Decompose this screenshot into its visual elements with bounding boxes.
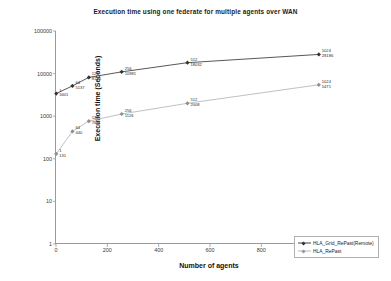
- legend-label-0: HLA_Grid_RePast(Remote): [313, 241, 374, 246]
- legend-marker-icon-1: [298, 248, 311, 255]
- y-tick-label: 100: [43, 156, 52, 162]
- x-tick-label: 400: [154, 247, 163, 253]
- legend: HLA_Grid_RePast(Remote) HLA_RePast: [294, 236, 379, 258]
- x-tick-label: 800: [257, 247, 266, 253]
- data-point-marker[interactable]: [54, 91, 58, 95]
- data-point-marker[interactable]: [87, 75, 91, 79]
- legend-item-1[interactable]: HLA_RePast: [298, 247, 374, 255]
- data-point-marker[interactable]: [317, 83, 321, 87]
- plot-area: Execution time (Seconds) 110100100010000…: [55, 31, 363, 244]
- x-tick-label: 0: [55, 247, 58, 253]
- legend-marker-icon-0: [298, 240, 311, 247]
- legend-label-1: HLA_RePast: [313, 249, 341, 254]
- legend-item-0[interactable]: HLA_Grid_RePast(Remote): [298, 239, 374, 247]
- series-layer: [54, 52, 321, 156]
- x-axis-title: Number of agents: [55, 262, 363, 269]
- data-point-marker[interactable]: [120, 70, 124, 74]
- plot-svg: [56, 31, 364, 244]
- data-point-marker[interactable]: [120, 112, 124, 116]
- axis-ticks: [53, 31, 364, 247]
- x-tick-label: 600: [206, 247, 215, 253]
- data-point-marker[interactable]: [70, 84, 74, 88]
- series-line: [56, 54, 319, 93]
- x-tick-label: 200: [103, 247, 112, 253]
- data-point-marker[interactable]: [185, 61, 189, 65]
- y-tick-label: 10000: [37, 71, 52, 77]
- y-tick-label: 100000: [34, 28, 52, 34]
- chart-title: Execution time using one federate for mu…: [0, 8, 391, 15]
- y-tick-label: 10: [46, 198, 52, 204]
- y-tick-label: 1: [49, 241, 52, 247]
- data-point-marker[interactable]: [87, 119, 91, 123]
- series-line: [56, 85, 319, 154]
- data-point-marker[interactable]: [185, 101, 189, 105]
- y-tick-label: 1000: [40, 113, 52, 119]
- data-point-marker[interactable]: [317, 52, 321, 56]
- chart-container: Execution time using one federate for mu…: [0, 0, 391, 281]
